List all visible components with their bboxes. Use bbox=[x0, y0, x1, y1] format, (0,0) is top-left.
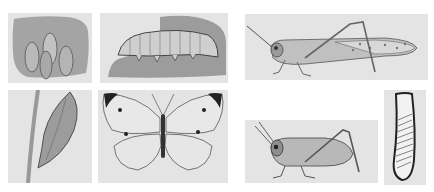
egg-pod-illustration bbox=[384, 90, 426, 185]
panel-nymph bbox=[245, 120, 378, 183]
eggs-illustration bbox=[8, 13, 92, 83]
chrysalis-illustration bbox=[8, 90, 92, 183]
panel-grasshopper bbox=[245, 14, 428, 80]
butterfly-illustration bbox=[98, 90, 228, 183]
panel-butterfly bbox=[98, 90, 228, 183]
panel-caterpillar bbox=[100, 13, 228, 83]
panel-egg-pod bbox=[384, 90, 426, 185]
grasshopper-illustration bbox=[245, 14, 428, 80]
panel-eggs bbox=[8, 13, 92, 83]
nymph-illustration bbox=[245, 120, 378, 183]
panel-chrysalis bbox=[8, 90, 92, 183]
caterpillar-illustration bbox=[100, 13, 228, 83]
